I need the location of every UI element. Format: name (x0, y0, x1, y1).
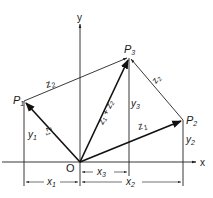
vector-o-p1 (26, 103, 80, 162)
z2-top-label: z2 (43, 76, 57, 91)
x2-label: x2 (125, 176, 135, 188)
p2-label: P2 (186, 114, 197, 127)
x-axis-label: x (200, 157, 205, 168)
p3-label: P3 (124, 43, 135, 56)
z1-right-label: z2 (149, 72, 163, 86)
vector-labels: z2 z1 z2 z1 z₁ + z₂ (43, 72, 164, 136)
y2-label: y2 (185, 134, 195, 146)
x-dimension-lines: x3 x1 x2 (26, 166, 181, 188)
axes: x y O (2, 12, 205, 186)
vector-p2-p3 (131, 59, 183, 120)
vector-diagram: x y O P1 P2 P3 z2 z1 (0, 0, 213, 198)
vector-o-p2 (80, 121, 181, 162)
origin-label: O (66, 162, 75, 174)
y3-label: y3 (130, 98, 140, 110)
y-axis-label: y (77, 12, 82, 23)
x3-label: x3 (96, 166, 106, 178)
z1-plus-z2-label: z₁ + z₂ (95, 98, 116, 127)
p1-label: P1 (13, 94, 24, 107)
z1-lower-label: z1 (135, 118, 149, 133)
x1-label: x1 (46, 176, 56, 188)
y1-label: y1 (27, 129, 37, 141)
